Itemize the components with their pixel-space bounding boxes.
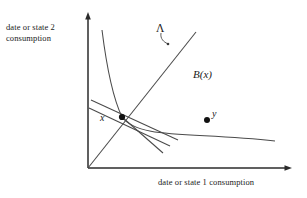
lambda-label: Λ <box>156 22 164 34</box>
x-axis-arrowhead <box>285 165 293 171</box>
x-axis-label: date or state 1 consumption <box>158 177 304 188</box>
y-axis-arrowhead <box>85 12 91 20</box>
indifference-curve-figure: date or state 2 consumption date or stat… <box>0 0 307 198</box>
budget-set-label: B(x) <box>193 68 212 80</box>
point-y-label: y <box>212 108 216 119</box>
lambda-pointer-arrow <box>161 33 168 44</box>
budget-line-3 <box>122 117 163 153</box>
ray-lambda-line <box>88 32 196 168</box>
y-axis-label: date or state 2 consumption <box>6 22 86 44</box>
point-x-label: x <box>100 112 104 123</box>
point-x-marker <box>119 114 125 120</box>
axes-group <box>85 12 292 171</box>
indifference-curve <box>102 30 275 141</box>
point-y-marker <box>204 117 210 123</box>
lambda-pointer-dot <box>167 43 170 46</box>
